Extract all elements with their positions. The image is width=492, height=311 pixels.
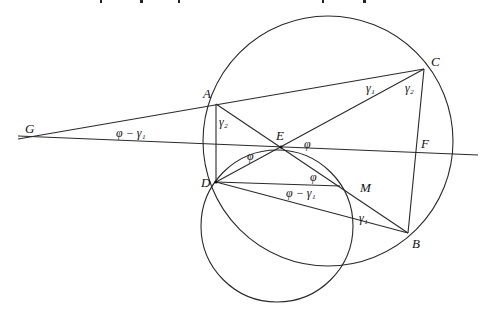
- cropped-caption-fragment: [100, 0, 366, 3]
- angle-label-A: γ₂: [219, 115, 228, 129]
- label-C: C: [431, 54, 440, 69]
- label-F: F: [420, 136, 430, 151]
- label-B: B: [412, 236, 420, 251]
- segment-D-M: [216, 182, 340, 186]
- angle-label-G: φ − γ₁: [116, 126, 146, 140]
- angle-label-M: φ: [310, 170, 317, 184]
- angle-label-E-right: φ: [304, 137, 311, 151]
- angle-label-B: γ₁: [359, 211, 368, 225]
- angle-label-C-lower: γ₂: [405, 81, 414, 95]
- angle-label-D-M: φ − γ₁: [286, 186, 316, 200]
- geometry-diagram: A B C D E F G M φ − γ₁ γ₂ φ φ γ₁ γ₂ φ φ …: [0, 0, 492, 311]
- label-A: A: [202, 86, 211, 101]
- circle-DEM: [201, 150, 353, 302]
- point-D-dot: [214, 180, 217, 183]
- angle-label-C-upper: γ₁: [366, 81, 375, 95]
- label-G: G: [25, 121, 35, 136]
- angle-label-E-left: φ: [247, 149, 254, 163]
- circumcircle-ABCD: [203, 16, 453, 266]
- label-D: D: [200, 175, 211, 190]
- label-E: E: [275, 128, 284, 143]
- point-E-dot: [279, 145, 282, 148]
- segment-A-M: [216, 104, 408, 233]
- label-M: M: [359, 180, 372, 195]
